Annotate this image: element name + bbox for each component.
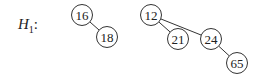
node-value: 18 bbox=[101, 30, 114, 45]
node-21: 21 bbox=[168, 29, 189, 50]
node-value: 16 bbox=[76, 8, 90, 23]
edge-24-65 bbox=[219, 46, 230, 56]
tree-nodes: 161812212465 bbox=[72, 5, 248, 74]
node-65: 65 bbox=[227, 53, 248, 74]
node-18: 18 bbox=[97, 27, 118, 48]
binomial-heap-diagram: 161812212465 bbox=[0, 0, 265, 84]
node-value: 24 bbox=[205, 32, 219, 47]
edge-16-18 bbox=[90, 22, 99, 30]
node-value: 21 bbox=[172, 32, 185, 47]
node-12: 12 bbox=[141, 5, 162, 26]
node-24: 24 bbox=[201, 29, 222, 50]
node-value: 65 bbox=[231, 56, 244, 71]
node-value: 12 bbox=[145, 8, 158, 23]
edge-12-21 bbox=[159, 22, 170, 32]
node-16: 16 bbox=[72, 5, 93, 26]
